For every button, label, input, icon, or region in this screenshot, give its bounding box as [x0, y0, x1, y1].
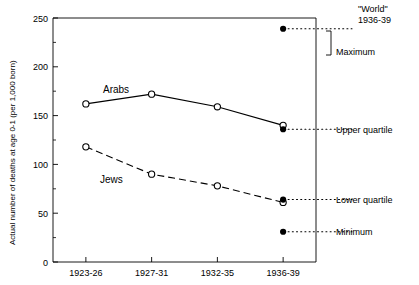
world-header-line1: "World": [358, 4, 388, 14]
world-marker: [280, 26, 286, 32]
series-label-jews: Jews: [100, 174, 123, 185]
x-tick-label-1923-26: 1923-26: [69, 268, 102, 278]
y-tick-label: 250: [33, 14, 48, 24]
y-axis-title: Actual number of deaths at age 0-1 (per …: [8, 60, 17, 245]
world-marker: [280, 229, 286, 235]
x-tick-label-1932-35: 1932-35: [201, 268, 234, 278]
y-tick-label: 150: [33, 111, 48, 121]
infant-mortality-line-chart: 050100150200250 1923-261927-311932-35193…: [0, 0, 419, 285]
y-tick-label: 200: [33, 62, 48, 72]
annotation-label: Upper quartile: [336, 125, 393, 135]
y-tick-label: 50: [38, 209, 48, 219]
data-point: [214, 183, 220, 189]
x-tick-label-1927-31: 1927-31: [135, 268, 168, 278]
data-point: [214, 104, 220, 110]
world-marker: [280, 126, 286, 132]
y-tick-label: 0: [43, 258, 48, 268]
annotation-label: Lower quartile: [336, 195, 393, 205]
series-label-arabs: Arabs: [103, 84, 129, 95]
data-point: [149, 171, 155, 177]
annotation-label: Maximum: [336, 47, 375, 57]
x-tick-label-1936-39: 1936-39: [267, 268, 300, 278]
world-header-line2: 1936-39: [358, 15, 391, 25]
y-tick-label: 100: [33, 160, 48, 170]
data-point: [83, 144, 89, 150]
annotation-label: Minimum: [336, 227, 373, 237]
data-point: [149, 91, 155, 97]
chart-figure: 050100150200250 1923-261927-311932-35193…: [0, 0, 419, 285]
chart-background: [0, 0, 419, 285]
data-point: [83, 101, 89, 107]
world-marker: [280, 196, 286, 202]
